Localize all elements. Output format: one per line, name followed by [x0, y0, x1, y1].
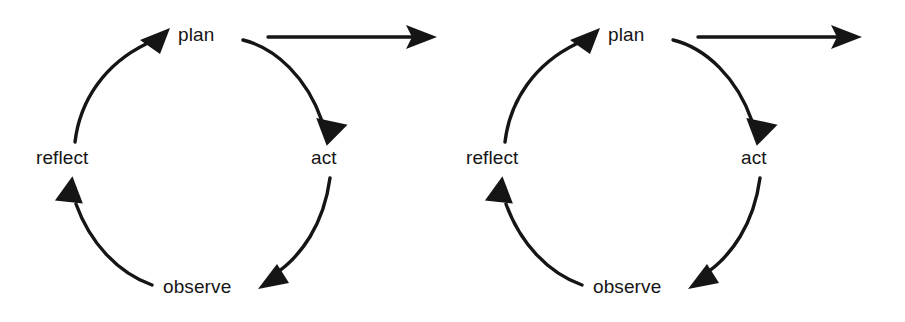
arrowhead-plan [570, 28, 600, 54]
arrowhead-reflect [485, 174, 517, 205]
edge-act-to-observe [272, 178, 330, 276]
arrowhead-reflect [55, 174, 87, 205]
edge-observe-to-reflect [76, 204, 152, 285]
arrowhead-plan [140, 28, 170, 54]
edge-plan-to-act [673, 40, 752, 121]
node-label-act: act [311, 148, 337, 167]
edge-reflect-to-plan [75, 44, 146, 142]
node-label-act: act [741, 148, 767, 167]
arrowhead-act [311, 118, 347, 149]
node-label-reflect: reflect [36, 148, 88, 167]
edge-observe-to-reflect [506, 204, 582, 285]
edge-plan-to-act [243, 40, 322, 121]
arrowhead-act [741, 118, 777, 149]
diagram-canvas: plan act observe reflect plan act o [0, 0, 905, 322]
node-label-observe: observe [163, 277, 231, 296]
cycle-diagram-right: plan act observe reflect [430, 0, 882, 322]
cycle-diagram-left: plan act observe reflect [0, 0, 452, 322]
node-label-observe: observe [593, 277, 661, 296]
node-label-plan: plan [178, 25, 214, 44]
edge-reflect-to-plan [505, 44, 576, 142]
node-label-reflect: reflect [466, 148, 518, 167]
edge-act-to-observe [702, 178, 760, 276]
node-label-plan: plan [608, 25, 644, 44]
